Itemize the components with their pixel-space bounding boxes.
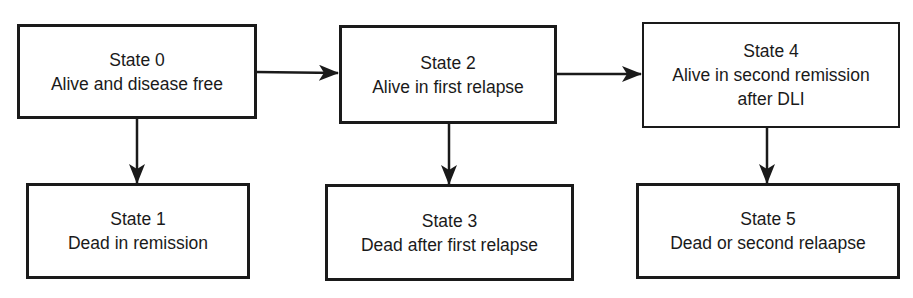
state-0-title: State 0 (109, 48, 164, 72)
state-1-title: State 1 (110, 207, 165, 231)
state-2-label: Alive in first relapse (372, 75, 524, 99)
state-4-title: State 4 (743, 39, 798, 63)
state-2-title: State 2 (420, 51, 475, 75)
state-2-box: State 2 Alive in first relapse (339, 25, 557, 124)
state-3-title: State 3 (422, 209, 477, 233)
state-0-label: Alive and disease free (51, 72, 223, 96)
state-3-box: State 3 Dead after first relapse (325, 184, 574, 281)
state-5-title: State 5 (740, 207, 795, 231)
state-5-box: State 5 Dead or second relaapse (636, 183, 900, 279)
state-4-label-line1: Alive in second remission (672, 63, 869, 87)
state-5-label: Dead or second relaapse (670, 231, 866, 255)
state-3-label: Dead after first relapse (361, 233, 538, 257)
state-1-box: State 1 Dead in remission (26, 183, 250, 279)
arrow-state0-to-state2 (256, 72, 338, 73)
state-1-label: Dead in remission (68, 231, 208, 255)
state-4-box: State 4 Alive in second remission after … (642, 22, 900, 128)
state-0-box: State 0 Alive and disease free (17, 24, 257, 119)
state-4-label-line2: after DLI (737, 87, 804, 111)
